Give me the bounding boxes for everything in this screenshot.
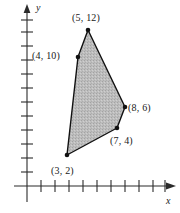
- vertex-marker-4-10: [76, 55, 81, 60]
- vertex-label-3-2: (3, 2): [51, 166, 74, 176]
- y-axis-label: y: [36, 3, 40, 13]
- vertex-marker-5-12: [86, 28, 91, 33]
- vertex-label-5-12: (5, 12): [72, 13, 100, 23]
- vertex-marker-7-4: [115, 126, 120, 131]
- coordinate-plane-figure: (5, 12) (4, 10) (3, 2) (7, 4) (8, 6) y x: [0, 0, 180, 213]
- plot-canvas: [0, 0, 180, 213]
- vertex-marker-8-6: [123, 105, 128, 110]
- x-axis-arrow-icon: [166, 182, 176, 189]
- vertex-label-8-6: (8, 6): [128, 103, 151, 113]
- y-axis-arrow-icon: [24, 4, 31, 13]
- vertex-label-4-10: (4, 10): [32, 51, 60, 61]
- vertex-label-7-4: (7, 4): [110, 136, 133, 146]
- x-axis-label: x: [166, 196, 170, 206]
- vertex-marker-3-2: [65, 153, 70, 158]
